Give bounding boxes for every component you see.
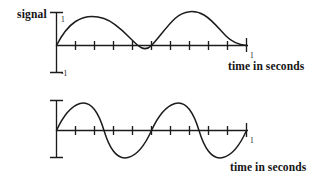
x-axis-end-label-bottom: 1 bbox=[250, 137, 254, 145]
x-axis-label-bottom: time in seconds bbox=[230, 162, 306, 174]
y-axis-label-top: signal bbox=[17, 9, 47, 21]
chart-top-svg bbox=[0, 0, 324, 92]
x-axis-label-top: time in seconds bbox=[228, 61, 304, 73]
y-axis-max-label-top: 1 bbox=[61, 16, 65, 24]
sine-wave-figure: signal 1 -1 1 time in seconds signal bbox=[0, 0, 324, 182]
chart-top-sine-1hz: signal 1 -1 bbox=[0, 0, 324, 92]
y-axis-min-label-top: -1 bbox=[61, 70, 67, 78]
x-axis-end-label-top: 1 bbox=[250, 52, 254, 60]
